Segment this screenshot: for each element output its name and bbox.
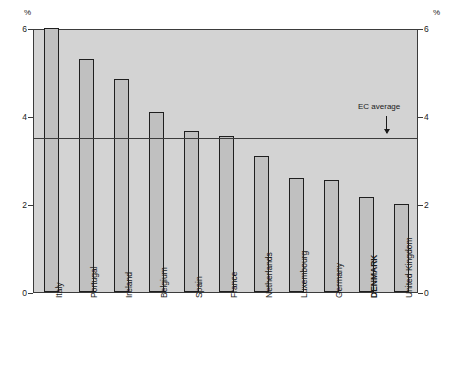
bar-italy (44, 28, 59, 292)
bar-portugal (79, 59, 94, 292)
category-label-france: France (230, 272, 239, 298)
y-tick-label-right-6: 6 (424, 25, 446, 34)
category-label-ireland: Ireland (125, 272, 134, 298)
category-label-netherlands: Netherlands (265, 252, 274, 298)
y-axis-unit-left: % (24, 9, 31, 17)
y-tick-mark-left-0 (28, 293, 33, 294)
bar-ireland (114, 79, 129, 292)
y-tick-label-left-0: 0 (5, 289, 27, 298)
y-tick-mark-right-6 (418, 29, 423, 30)
y-tick-label-right-2: 2 (424, 201, 446, 210)
ec-average-label: EC average (358, 103, 400, 111)
category-label-united-kingdom: United Kingdom (405, 238, 414, 298)
plot-area: EC average (33, 29, 418, 293)
bar-france (219, 136, 234, 292)
bar-spain (184, 131, 199, 292)
y-tick-label-left-2: 2 (5, 201, 27, 210)
y-axis-unit-right: % (433, 9, 440, 17)
y-tick-label-right-4: 4 (424, 113, 446, 122)
category-label-luxembourg: Luxembourg (300, 251, 309, 298)
y-tick-label-left-6: 6 (5, 25, 27, 34)
category-label-denmark: DENMARK (370, 255, 379, 298)
category-label-belgium: Belgium (160, 267, 169, 298)
bar-chart: % % 00224466 EC average ItalyPortugalIre… (0, 0, 462, 365)
ec-average-reference-line (34, 138, 417, 139)
y-tick-mark-right-2 (418, 205, 423, 206)
category-label-italy: Italy (55, 282, 64, 298)
category-label-germany: Germany (335, 263, 344, 298)
y-tick-mark-right-4 (418, 117, 423, 118)
y-tick-label-right-0: 0 (424, 289, 446, 298)
y-tick-label-left-4: 4 (5, 113, 27, 122)
y-tick-mark-right-0 (418, 293, 423, 294)
ec-average-arrow-icon (386, 116, 387, 133)
category-label-portugal: Portugal (90, 266, 99, 298)
category-label-spain: Spain (195, 276, 204, 298)
